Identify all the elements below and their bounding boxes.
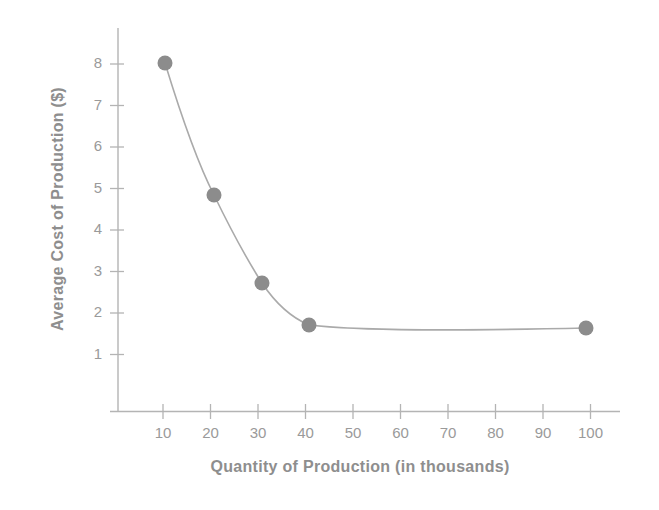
data-curve xyxy=(165,63,586,330)
y-tick-label-1: 1 xyxy=(72,345,102,362)
y-tick-label-8: 8 xyxy=(72,54,102,71)
x-axis-title: Quantity of Production (in thousands) xyxy=(120,458,600,476)
x-tick-label-90: 90 xyxy=(523,424,563,441)
x-tick-label-40: 40 xyxy=(286,424,326,441)
data-point-markers xyxy=(158,56,594,336)
chart-figure: 8 7 6 5 4 3 2 1 10 20 30 40 50 60 70 80 … xyxy=(0,0,659,510)
x-tick-label-70: 70 xyxy=(428,424,468,441)
y-tick-label-2: 2 xyxy=(72,303,102,320)
x-tick-label-20: 20 xyxy=(191,424,231,441)
y-axis-ticks xyxy=(110,64,124,355)
x-tick-label-80: 80 xyxy=(476,424,516,441)
data-point-5 xyxy=(579,321,594,336)
y-tick-label-7: 7 xyxy=(72,96,102,113)
x-tick-label-30: 30 xyxy=(238,424,278,441)
data-point-1 xyxy=(158,56,173,71)
y-tick-label-5: 5 xyxy=(72,179,102,196)
chart-screenshot: 8 7 6 5 4 3 2 1 10 20 30 40 50 60 70 80 … xyxy=(0,0,659,510)
y-tick-label-4: 4 xyxy=(72,220,102,237)
data-point-3 xyxy=(255,276,270,291)
data-point-4 xyxy=(302,318,317,333)
x-tick-label-50: 50 xyxy=(333,424,373,441)
x-tick-label-10: 10 xyxy=(143,424,183,441)
data-point-2 xyxy=(207,188,222,203)
y-axis-title: Average Cost of Production ($) xyxy=(49,59,67,359)
y-tick-label-6: 6 xyxy=(72,137,102,154)
x-tick-label-60: 60 xyxy=(381,424,421,441)
x-tick-label-100: 100 xyxy=(571,424,611,441)
y-tick-label-3: 3 xyxy=(72,262,102,279)
